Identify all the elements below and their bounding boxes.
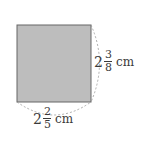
width-fraction: 2 5	[43, 107, 52, 130]
height-unit: cm	[116, 55, 134, 69]
height-label: 2 3 8 cm	[94, 50, 134, 73]
width-unit: cm	[55, 112, 73, 126]
width-whole: 2	[33, 111, 42, 127]
height-fraction: 3 8	[104, 50, 113, 73]
width-label: 2 2 5 cm	[33, 107, 73, 130]
height-whole: 2	[94, 54, 103, 70]
shaded-rectangle	[17, 25, 91, 102]
